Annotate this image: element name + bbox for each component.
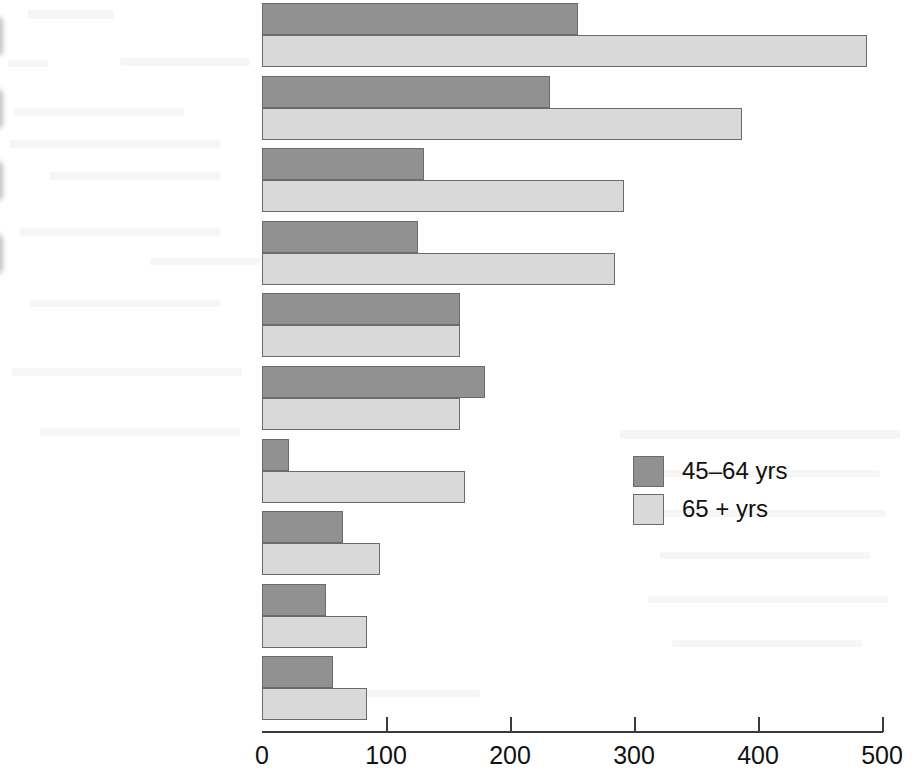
bar	[262, 616, 367, 648]
scan-artifact	[10, 140, 220, 148]
bar-group	[262, 148, 882, 212]
x-axis-tick-label: 100	[365, 740, 407, 770]
bar	[262, 3, 578, 35]
scan-artifact	[12, 368, 242, 376]
scan-artifact	[28, 10, 114, 19]
bar	[262, 398, 460, 430]
legend-swatch	[633, 494, 664, 525]
legend-label: 65 + yrs	[682, 495, 768, 523]
bar	[262, 511, 343, 543]
scan-artifact	[20, 228, 220, 236]
bar-group	[262, 76, 882, 140]
x-axis-line	[262, 731, 883, 733]
bar	[262, 148, 424, 180]
bar	[262, 221, 418, 253]
x-axis-tick	[882, 717, 884, 732]
scan-artifact	[40, 428, 240, 436]
x-axis-tick	[510, 717, 512, 732]
bar-group	[262, 366, 882, 430]
bar	[262, 584, 326, 616]
x-axis-tick	[634, 717, 636, 732]
bar	[262, 543, 380, 575]
legend-item: 65 + yrs	[633, 490, 787, 528]
legend-item: 45–64 yrs	[633, 452, 787, 490]
scan-artifact	[8, 60, 48, 67]
bar-group	[262, 511, 882, 575]
bar-chart: ArthritisHypertensionHearing impairmentH…	[0, 0, 916, 783]
legend: 45–64 yrs65 + yrs	[633, 452, 787, 528]
bar	[262, 108, 742, 140]
legend-label: 45–64 yrs	[682, 457, 787, 485]
bar	[262, 656, 333, 688]
x-axis-tick	[758, 717, 760, 732]
bar	[262, 76, 550, 108]
bar-group	[262, 221, 882, 285]
bar-group	[262, 3, 882, 67]
x-axis-tick-label: 500	[861, 740, 903, 770]
scan-artifact	[120, 58, 250, 66]
bar-group	[262, 656, 882, 720]
plot-area	[262, 0, 882, 732]
x-axis-tick-label: 200	[489, 740, 531, 770]
bar	[262, 471, 465, 503]
scan-artifact	[150, 258, 260, 265]
bar	[262, 688, 367, 720]
bar-group	[262, 293, 882, 357]
scan-artifact	[14, 108, 184, 116]
bar	[262, 439, 289, 471]
x-axis-tick-label: 300	[613, 740, 655, 770]
legend-swatch	[633, 456, 664, 487]
scan-artifact	[30, 300, 220, 307]
x-axis-tick-label: 0	[255, 740, 269, 770]
bar	[262, 253, 615, 285]
bar-group	[262, 439, 882, 503]
bar-group	[262, 584, 882, 648]
bar	[262, 35, 867, 67]
bar	[262, 325, 460, 357]
bar	[262, 366, 485, 398]
x-axis-tick	[386, 717, 388, 732]
bar	[262, 293, 460, 325]
x-axis-tick-label: 400	[737, 740, 779, 770]
scan-artifact	[50, 172, 220, 180]
bar	[262, 180, 624, 212]
